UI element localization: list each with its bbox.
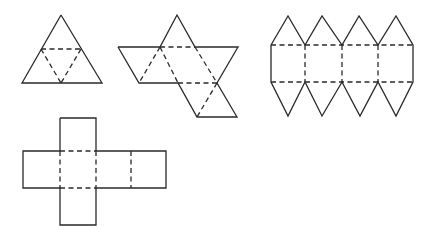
fold-line — [61, 49, 81, 83]
strip-net — [271, 16, 413, 116]
fold-line — [160, 47, 178, 83]
outline — [23, 118, 166, 225]
octahedron-net — [118, 15, 238, 117]
cube-net — [23, 118, 166, 225]
outline — [118, 15, 238, 117]
tetrahedron-net — [22, 15, 102, 83]
polyhedra-nets-figure — [0, 0, 435, 237]
fold-line — [139, 47, 160, 83]
fold-line — [195, 47, 217, 83]
fold-line — [41, 49, 61, 83]
fold-line — [197, 83, 217, 117]
